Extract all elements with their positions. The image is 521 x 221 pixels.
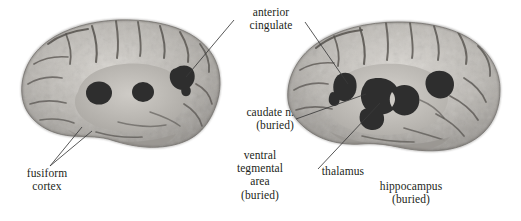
label-caudate-nucleus-line2: (buried) (228, 119, 294, 132)
label-caudate-nucleus: caudate n. (buried) (228, 106, 294, 132)
label-ventral-tegmental-area-line2: tegmental (226, 162, 294, 175)
label-hippocampus-line2: (buried) (366, 193, 456, 206)
left-brain-medial-view (18, 16, 228, 156)
left-blob-caudate (86, 82, 112, 105)
label-ventral-tegmental-area-line1: ventral (226, 149, 294, 162)
label-ventral-tegmental-area: ventral tegmental area (buried) (226, 149, 294, 202)
label-caudate-nucleus-line1: caudate n. (228, 106, 294, 119)
label-ventral-tegmental-area-line3: area (226, 175, 294, 188)
label-thalamus: thalamus (313, 165, 373, 178)
label-anterior-cingulate: anterior cingulate (236, 6, 306, 32)
label-hippocampus: hippocampus (buried) (366, 180, 456, 206)
label-hippocampus-line1: hippocampus (366, 180, 456, 193)
left-blob-thalamus (132, 82, 154, 102)
label-fusiform-cortex: fusiform cortex (8, 167, 86, 193)
label-ventral-tegmental-area-line4: (buried) (226, 189, 294, 202)
brain-figure: anterior cingulate fusiform cortex cauda… (0, 0, 521, 221)
label-anterior-cingulate-line2: cingulate (236, 19, 306, 32)
label-fusiform-cortex-line1: fusiform (8, 167, 86, 180)
label-anterior-cingulate-line1: anterior (236, 6, 306, 19)
label-fusiform-cortex-line2: cortex (8, 180, 86, 193)
label-thalamus-line1: thalamus (313, 165, 373, 178)
